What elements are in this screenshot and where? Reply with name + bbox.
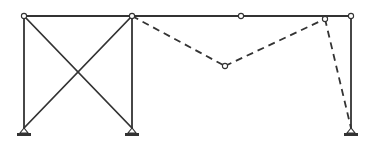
solid-members	[24, 16, 351, 128]
hinge-node-icon	[348, 13, 353, 18]
displaced-member	[132, 16, 225, 66]
pin-support-icon	[344, 128, 358, 136]
pin-support-icon	[17, 128, 31, 136]
displaced-mechanism-members	[132, 16, 351, 128]
hinge-node-icon	[222, 63, 227, 68]
displaced-member	[325, 19, 351, 128]
frame-diagram	[0, 0, 377, 148]
displaced-member	[225, 19, 325, 66]
hinge-node-icon	[238, 13, 243, 18]
pin-supports	[17, 128, 358, 136]
pin-support-icon	[125, 128, 139, 136]
hinge-node-icon	[129, 13, 134, 18]
hinge-node-icon	[21, 13, 26, 18]
hinge-nodes	[21, 13, 353, 68]
hinge-node-icon	[322, 16, 327, 21]
